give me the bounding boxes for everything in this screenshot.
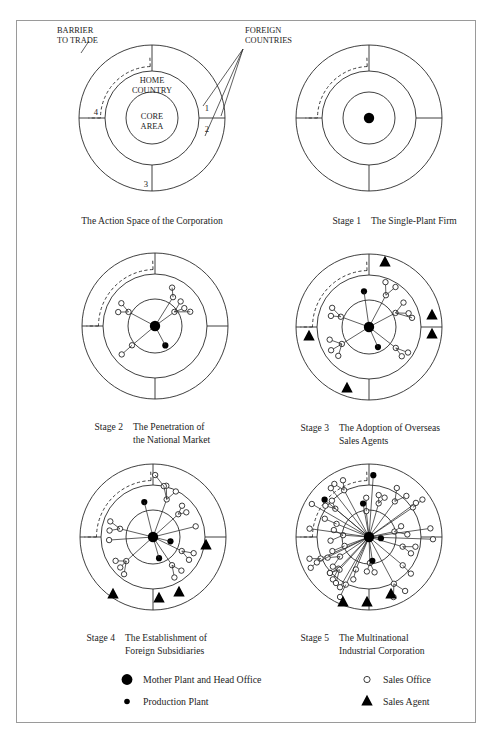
stage4-plant-link-1: [144, 502, 153, 537]
sector-number-2: 2: [205, 124, 209, 134]
caption-stage-4-line2: Foreign Subsidiaries: [125, 645, 204, 656]
stage3-branch-w-leaf: [329, 305, 334, 310]
stage4-branch-nne-trunk: [153, 499, 167, 537]
caption-stage-3-line2: Sales Agents: [339, 435, 389, 446]
caption-stage-4-stage: Stage 4: [86, 632, 115, 643]
stage4-branch-wfar-trunk: [109, 537, 153, 540]
stage2-branch-e-leaf: [182, 305, 187, 310]
legend-label-sales-agent: Sales Agent: [383, 696, 430, 707]
stage5-branch-17-leaf: [330, 564, 335, 569]
stage5-branch-5-leaf: [376, 492, 381, 497]
stage4-branch-sse-leaf: [179, 568, 184, 573]
foreign-leader-line-2: [205, 49, 243, 136]
stage3-agent-top: [379, 256, 390, 267]
stage3-plant-link-1: [364, 291, 369, 327]
label-core-area-line2: AREA: [141, 122, 164, 131]
stage4-branch-e-hub: [193, 524, 198, 529]
legend-label-production-plant: Production Plant: [143, 696, 209, 707]
stage5-branch-18-trunk: [340, 537, 369, 570]
stage3-mother-plant: [364, 322, 374, 332]
stage5-branch-12-leaf: [372, 570, 377, 575]
stage4-branch-sw-trunk: [126, 537, 153, 561]
stage5-branch-9-trunk: [369, 537, 403, 547]
stage3-branch-ne-leaf: [383, 279, 388, 284]
stage2-branch-nw-leaf: [119, 301, 124, 306]
caption-stage-5-line1: The Multinational: [339, 632, 409, 643]
caption-stage-2-line2: the National Market: [133, 434, 211, 445]
stage4-branch-wfar-hub: [106, 537, 111, 542]
stage5-branch-9-leaf: [408, 551, 413, 556]
stage4-branch-w-leaf: [107, 528, 112, 533]
stage4-production-plant-3: [156, 555, 162, 561]
label-barrier-line1: BARRIER: [57, 26, 94, 35]
stage5-branch-4-leaf: [364, 495, 369, 500]
caption-stage-3-line1: The Adoption of Overseas: [339, 422, 440, 433]
stage5-branch-11-leaf: [402, 588, 407, 593]
stage2-mother-plant: [150, 321, 160, 331]
legend-production-plant-icon: [124, 699, 130, 705]
stage5-production-plant-0: [360, 500, 366, 506]
stage5-branch-8-leaf: [398, 524, 403, 529]
stage4-branch-w-leaf: [108, 519, 113, 524]
stage4-branch-ne-leaf: [179, 503, 184, 508]
stage4-agent-bottom-left: [107, 588, 118, 599]
stage5-far-office-3: [428, 526, 433, 531]
stage4-agent-bottom-mid: [153, 592, 164, 603]
stage2-branch-e-leaf: [178, 299, 183, 304]
stage5-branch-6-trunk: [369, 501, 395, 537]
caption-stage-5-line2: Industrial Corporation: [339, 645, 425, 656]
stage5-branch-5-leaf: [382, 495, 387, 500]
stage5-branch-7-leaf: [420, 497, 425, 502]
stage5-branch-8-leaf: [405, 532, 410, 537]
stage2-branch-sw-leaf: [119, 352, 124, 357]
stage5-far-office-2: [307, 526, 312, 531]
stage5-far-office-4: [430, 537, 435, 542]
stage5-branch-12-leaf: [364, 569, 369, 574]
stage5-far-office-5: [413, 500, 418, 505]
stage4-production-plant-1: [141, 499, 147, 505]
stage3-branch-sw-leaf: [327, 337, 332, 342]
legend-mother-plant-icon: [122, 674, 133, 685]
caption-stage-4-line1: The Establishment of: [125, 632, 208, 643]
stage5-production-plant-4: [378, 535, 384, 541]
stage3-agent-right-upper: [426, 309, 437, 320]
caption-stage-3-stage: Stage 3: [300, 422, 329, 433]
stage4-link-b: [155, 475, 164, 486]
stage5-branch-16-leaf: [330, 548, 335, 553]
label-home-country-line1: HOME: [140, 76, 165, 85]
stage4-agent-bottom-right: [173, 586, 184, 597]
stage5-branch-18-leaf: [327, 570, 332, 575]
legend-label-mother-plant: Mother Plant and Head Office: [143, 674, 262, 685]
stage2-branch-nw-leaf: [116, 309, 121, 314]
stage4-branch-sw-leaf: [118, 565, 123, 570]
stage5-branch-3-leaf: [340, 478, 345, 483]
stage4-branch-nne-leaf: [173, 489, 178, 494]
stage5-branch-9-leaf: [413, 544, 418, 549]
stage5-far-office-7: [314, 560, 319, 565]
stage3-branch-ne-leaf: [393, 284, 398, 289]
stage5-branch-17-leaf: [325, 555, 330, 560]
legend-label-sales-office: Sales Office: [383, 674, 432, 685]
stage3-branch-w-leaf: [328, 313, 333, 318]
stage5-far-office-6: [337, 585, 342, 590]
stage5-agent-bottom-mid: [361, 596, 372, 607]
foreign-leader-line-1: [203, 49, 243, 106]
stage4-branch-sw-leaf: [121, 571, 126, 576]
stage5-plant-link-1: [369, 475, 373, 537]
stage5-far-office-0: [309, 501, 314, 506]
caption-stage-1-line1: The Single-Plant Firm: [371, 215, 457, 226]
label-home-country-line2: COUNTRY: [132, 86, 172, 95]
stage3-branch-se-leaf: [405, 350, 410, 355]
figure-canvas: HOMECOUNTRYCOREAREA1234BARRIERTO TRADEFO…: [17, 21, 475, 722]
stage1-barrier-arc: [318, 67, 368, 118]
stage4-branch-se-leaf: [191, 550, 196, 555]
figure-frame: HOMECOUNTRYCOREAREA1234BARRIERTO TRADEFO…: [16, 20, 476, 723]
stage5-branch-13-leaf: [351, 577, 356, 582]
stage2-barrier-arc: [99, 270, 154, 326]
stage4-barrier-arc: [97, 481, 152, 537]
stage5-branch-1-leaf: [322, 516, 327, 521]
stage4-mother-plant: [148, 532, 158, 542]
stage3-agent-bottom: [341, 382, 352, 393]
caption-stage-5-stage: Stage 5: [300, 632, 329, 643]
stage5-branch-6-leaf: [404, 493, 409, 498]
